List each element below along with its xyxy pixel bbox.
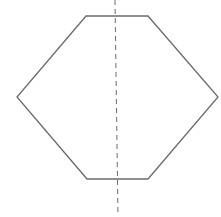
hexagon-diagram — [0, 0, 221, 217]
symmetry-axis-dashed-line — [115, 0, 118, 216]
